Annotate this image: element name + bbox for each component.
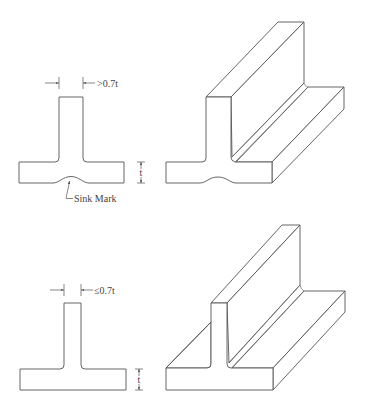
rib-design-diagram: >0.7t t Sink Mark — [0, 0, 365, 410]
sink-mark-label: Sink Mark — [74, 193, 117, 204]
thickness-label: t — [138, 374, 141, 385]
rib-width-label: ≤0.7t — [94, 285, 115, 296]
thin-rib-profile — [20, 303, 126, 390]
wall-thickness-dimension: t — [135, 369, 143, 390]
sink-mark-callout: Sink Mark — [66, 181, 117, 204]
thick-rib-profile — [19, 97, 124, 183]
thick-rib-section-2d: >0.7t t Sink Mark — [19, 77, 145, 204]
thickness-label: t — [140, 167, 143, 178]
wall-thickness-dimension: t — [137, 162, 145, 183]
thick-rib-isometric — [166, 22, 344, 183]
rib-width-dimension: ≤0.7t — [50, 284, 115, 296]
diagram-canvas: >0.7t t Sink Mark — [0, 0, 365, 410]
bottom-example: ≤0.7t t — [20, 225, 345, 390]
thin-rib-section-2d: ≤0.7t t — [20, 284, 143, 390]
rib-width-dimension: >0.7t — [45, 77, 118, 89]
thin-rib-isometric — [166, 225, 345, 390]
rib-width-label: >0.7t — [97, 78, 118, 89]
top-example: >0.7t t Sink Mark — [19, 22, 344, 204]
